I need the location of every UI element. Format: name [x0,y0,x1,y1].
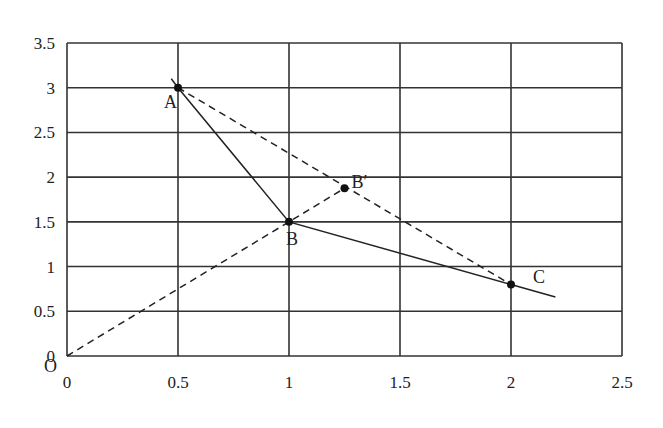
point-label: B′ [352,172,368,192]
point-label: C [533,267,545,287]
y-axis-ticks: 00.511.522.533.5 [34,34,55,366]
point-label: A [164,92,177,112]
dashed-line [67,188,345,356]
point-marker [507,280,515,288]
origin-label: O [44,356,57,376]
y-tick-label: 3 [47,79,56,98]
data-lines [67,79,555,356]
x-tick-label: 2.5 [611,373,632,392]
y-tick-label: 3.5 [34,34,55,53]
x-tick-label: 0 [63,373,72,392]
point-label: B [286,229,298,249]
chart: ABB′C 00.511.522.5 00.511.522.533.5 O [0,0,663,428]
x-tick-label: 2 [507,373,516,392]
y-tick-label: 1 [47,258,56,277]
x-axis-ticks: 00.511.522.5 [63,373,633,392]
y-tick-label: 0.5 [34,302,55,321]
point-marker [285,218,293,226]
x-tick-label: 1.5 [389,373,410,392]
x-tick-label: 0.5 [167,373,188,392]
data-points: ABB′C [164,84,545,289]
y-tick-label: 2 [47,168,56,187]
point-marker [341,184,349,192]
y-tick-label: 2.5 [34,123,55,142]
y-tick-label: 1.5 [34,213,55,232]
grid [67,43,622,356]
x-tick-label: 1 [285,373,294,392]
point-marker [174,84,182,92]
